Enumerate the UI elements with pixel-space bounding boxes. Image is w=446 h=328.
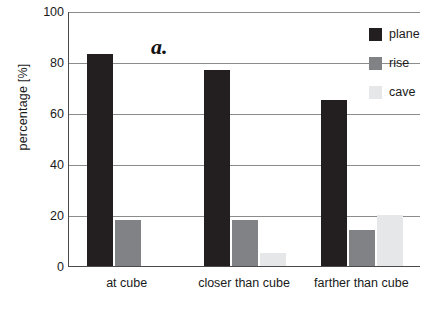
legend-label: plane bbox=[389, 28, 420, 41]
bar bbox=[115, 220, 141, 266]
bar-chart: 020406080100 percentage [%] a. planerise… bbox=[0, 0, 446, 328]
bar bbox=[377, 215, 403, 266]
y-axis-tick-label: 0 bbox=[57, 261, 64, 274]
y-axis-tick-label: 40 bbox=[50, 159, 64, 172]
bars-layer bbox=[69, 12, 420, 266]
x-axis-tick-labels: at cubecloser than cubefarther than cube bbox=[68, 276, 420, 296]
bar bbox=[232, 220, 258, 266]
legend-swatch bbox=[369, 57, 382, 70]
bar bbox=[260, 253, 286, 266]
x-axis-tick-label: at cube bbox=[106, 276, 147, 290]
y-axis-tick-label: 60 bbox=[50, 108, 64, 121]
y-axis-tick-label: 100 bbox=[43, 6, 64, 19]
bar bbox=[204, 70, 230, 266]
bar bbox=[349, 230, 375, 266]
bar bbox=[321, 100, 347, 266]
bar bbox=[87, 54, 113, 266]
plot-area: a. planerisecave bbox=[68, 12, 420, 267]
x-axis-tick-label: farther than cube bbox=[314, 276, 409, 290]
y-axis-tick-label: 20 bbox=[50, 210, 64, 223]
legend-swatch bbox=[369, 86, 382, 99]
chart-legend: planerisecave bbox=[369, 28, 446, 115]
legend-item: cave bbox=[369, 86, 446, 99]
y-axis-tick-labels: 020406080100 bbox=[28, 12, 64, 267]
legend-label: rise bbox=[389, 57, 409, 70]
legend-item: plane bbox=[369, 28, 446, 41]
bar-group bbox=[186, 12, 303, 266]
y-axis-tick-label: 80 bbox=[50, 57, 64, 70]
y-axis-title: percentage [%] bbox=[16, 22, 30, 192]
legend-item: rise bbox=[369, 57, 446, 70]
x-axis-tick-label: closer than cube bbox=[198, 276, 290, 290]
legend-label: cave bbox=[389, 86, 415, 99]
panel-label: a. bbox=[151, 34, 168, 60]
bar-group bbox=[69, 12, 186, 266]
legend-swatch bbox=[369, 28, 382, 41]
